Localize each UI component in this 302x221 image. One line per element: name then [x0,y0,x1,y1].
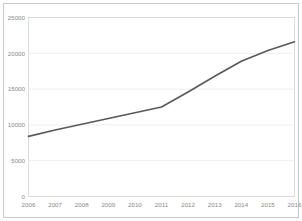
x-tick-label: 2009 [101,201,115,208]
y-tick-label: 10000 [8,121,26,128]
y-tick-label: 5000 [11,157,25,164]
x-tick-label: 2013 [208,201,222,208]
line-chart: 0500010000150002000025000 20062007200820… [0,0,302,221]
y-axis-tick-labels: 0500010000150002000025000 [8,14,26,200]
x-axis-tick-labels: 2006200720082009201020112012201320142015… [22,201,302,208]
x-tick-label: 2007 [48,201,62,208]
x-tick-label: 2006 [22,201,36,208]
x-tick-label: 2010 [128,201,142,208]
x-tick-label: 2016 [288,201,302,208]
y-tick-label: 25000 [8,14,26,21]
y-tick-label: 15000 [8,85,26,92]
x-tick-label: 2012 [181,201,195,208]
x-tick-label: 2014 [234,201,248,208]
chart-figure: 0500010000150002000025000 20062007200820… [0,0,302,221]
x-tick-label: 2008 [75,201,89,208]
x-tick-label: 2015 [261,201,275,208]
x-tick-label: 2011 [155,201,169,208]
y-tick-label: 20000 [8,50,26,57]
y-tick-label: 0 [22,193,26,200]
